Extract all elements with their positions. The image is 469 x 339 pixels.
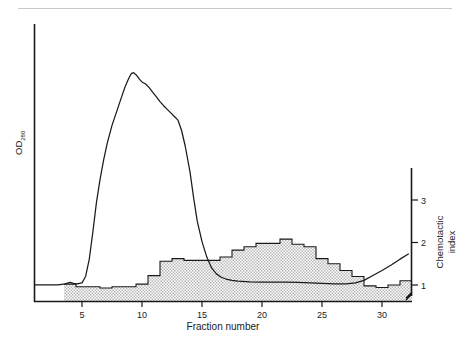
x-tick-label-20: 20 — [257, 310, 267, 320]
x-tick-label-30: 30 — [377, 310, 387, 320]
od280-curve — [34, 73, 408, 285]
y2-tick-label-2: 2 — [421, 238, 426, 248]
y2-tick-label-1: 1 — [421, 281, 426, 291]
x-tick-label-15: 15 — [197, 310, 207, 320]
right-tick-group: 123 — [412, 196, 426, 291]
y-axis-title: OD280 — [13, 130, 26, 155]
y-axis-title-subscript: 280 — [20, 130, 26, 141]
x-tick-label-5: 5 — [79, 310, 84, 320]
y2-axis-title-line1: Chemotactic — [434, 215, 445, 268]
y2-tick-label-3: 3 — [421, 196, 426, 206]
y2-axis-title-line2: index — [446, 230, 457, 253]
chemotactic-index-histogram — [64, 239, 412, 301]
histogram-fill-area — [64, 239, 412, 301]
x-axis-title: Fraction number — [187, 321, 260, 332]
y-axis-title-main: OD — [13, 141, 24, 155]
bottom-tick-group: 51015202530 — [79, 301, 387, 320]
x-tick-label-25: 25 — [317, 310, 327, 320]
chromatography-chemotaxis-chart: 51015202530 123 Fraction number OD280 Ch… — [0, 0, 469, 339]
od280-trace-group — [34, 73, 408, 285]
x-tick-label-10: 10 — [137, 310, 147, 320]
figure-container: 51015202530 123 Fraction number OD280 Ch… — [0, 0, 469, 339]
